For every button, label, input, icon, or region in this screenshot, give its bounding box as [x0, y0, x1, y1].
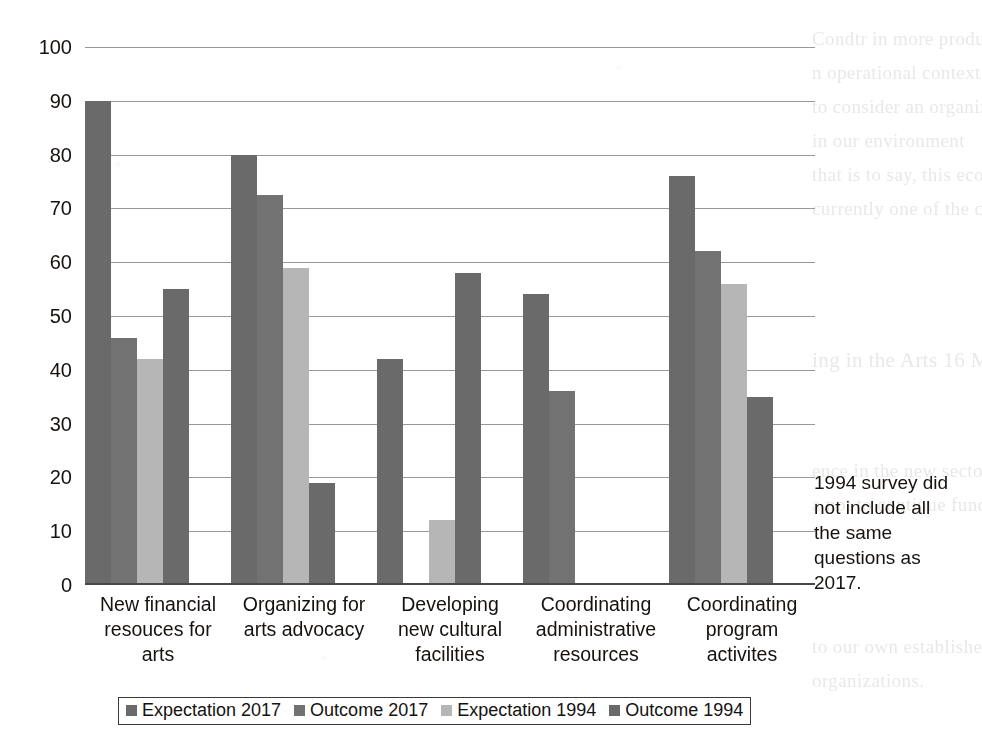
legend-label: Outcome 2017 [310, 700, 428, 721]
bar[interactable] [695, 251, 721, 585]
bar[interactable] [429, 520, 455, 585]
annotation-line: 1994 survey did [814, 470, 974, 495]
bar-slot [403, 47, 429, 585]
y-axis-tick-label: 60 [50, 251, 72, 274]
bar[interactable] [669, 176, 695, 585]
category-label-line: resources [527, 642, 665, 667]
bar-slot [523, 47, 549, 585]
y-axis-tick-label: 20 [50, 466, 72, 489]
bar-group [377, 47, 523, 585]
bar-group [85, 47, 231, 585]
bar[interactable] [309, 483, 335, 585]
x-axis-category-label: Coordinatingadministrativeresources [523, 592, 669, 667]
bar-slot [601, 47, 627, 585]
annotation-line: the same [814, 520, 974, 545]
legend-item[interactable]: Expectation 2017 [126, 700, 281, 721]
legend-item[interactable]: Outcome 2017 [294, 700, 428, 721]
bar-slot [111, 47, 137, 585]
bar-slot [231, 47, 257, 585]
bar[interactable] [721, 284, 747, 585]
legend-label: Outcome 1994 [625, 700, 743, 721]
legend-item[interactable]: Outcome 1994 [609, 700, 743, 721]
category-label-line: administrative [527, 617, 665, 642]
bar-chart: 1009080706050403020100 New financialreso… [0, 0, 982, 748]
category-label-line: program [673, 617, 811, 642]
bar-slot [163, 47, 189, 585]
bar[interactable] [549, 391, 575, 585]
bar-groups [85, 47, 815, 585]
category-label-line: facilities [381, 642, 519, 667]
y-axis-tick-label: 50 [50, 305, 72, 328]
bar-slot [455, 47, 481, 585]
bar-slot [309, 47, 335, 585]
x-axis-line [85, 583, 815, 585]
y-axis-tick-label: 90 [50, 89, 72, 112]
bar[interactable] [257, 195, 283, 585]
bar[interactable] [85, 101, 111, 585]
y-axis-tick-label: 70 [50, 197, 72, 220]
bar-slot [549, 47, 575, 585]
legend-item[interactable]: Expectation 1994 [441, 700, 596, 721]
bar-slot [747, 47, 773, 585]
bar[interactable] [137, 359, 163, 585]
category-label-line: arts advocacy [235, 617, 373, 642]
legend-label: Expectation 2017 [142, 700, 281, 721]
x-axis-category-label: Developingnew culturalfacilities [377, 592, 523, 667]
y-axis-tick-label: 10 [50, 520, 72, 543]
y-axis-tick-label: 40 [50, 358, 72, 381]
category-label-line: Coordinating [673, 592, 811, 617]
bar-group [231, 47, 377, 585]
legend-swatch-icon [294, 705, 305, 716]
bar-slot [137, 47, 163, 585]
category-label-line: Organizing for [235, 592, 373, 617]
bar-slot [283, 47, 309, 585]
legend-label: Expectation 1994 [457, 700, 596, 721]
category-label-line: Developing [381, 592, 519, 617]
category-label-line: arts [89, 642, 227, 667]
plot-area: 1009080706050403020100 [85, 47, 815, 585]
category-label-line: new cultural [381, 617, 519, 642]
chart-legend: Expectation 2017Outcome 2017Expectation … [118, 697, 751, 725]
x-axis-category-labels: New financialresouces forartsOrganizing … [85, 592, 815, 667]
bar[interactable] [231, 155, 257, 585]
bar[interactable] [163, 289, 189, 585]
bar[interactable] [111, 338, 137, 585]
bar-group [669, 47, 815, 585]
category-label-line: activites [673, 642, 811, 667]
bar-slot [429, 47, 455, 585]
y-axis-tick-label: 100 [39, 36, 72, 59]
bar-slot [721, 47, 747, 585]
legend-swatch-icon [126, 705, 137, 716]
bar[interactable] [523, 294, 549, 585]
x-axis-category-label: New financialresouces forarts [85, 592, 231, 667]
y-axis-tick-label: 80 [50, 143, 72, 166]
x-axis-category-label: Organizing forarts advocacy [231, 592, 377, 667]
legend-swatch-icon [441, 705, 452, 716]
annotation-line: questions as [814, 545, 974, 570]
bar-group [523, 47, 669, 585]
bar[interactable] [747, 397, 773, 585]
bar[interactable] [377, 359, 403, 585]
bar-slot [257, 47, 283, 585]
bar[interactable] [283, 268, 309, 585]
legend-swatch-icon [609, 705, 620, 716]
bar-slot [85, 47, 111, 585]
chart-annotation: 1994 survey did not include all the same… [814, 470, 974, 595]
bar-slot [575, 47, 601, 585]
bar-slot [377, 47, 403, 585]
category-label-line: resouces for [89, 617, 227, 642]
bar-slot [695, 47, 721, 585]
y-axis-tick-label: 30 [50, 412, 72, 435]
y-axis-tick-label: 0 [61, 574, 72, 597]
category-label-line: Coordinating [527, 592, 665, 617]
annotation-line: not include all [814, 495, 974, 520]
annotation-line: 2017. [814, 570, 974, 595]
category-label-line: New financial [89, 592, 227, 617]
bar-slot [669, 47, 695, 585]
x-axis-category-label: Coordinatingprogramactivites [669, 592, 815, 667]
bar[interactable] [455, 273, 481, 585]
